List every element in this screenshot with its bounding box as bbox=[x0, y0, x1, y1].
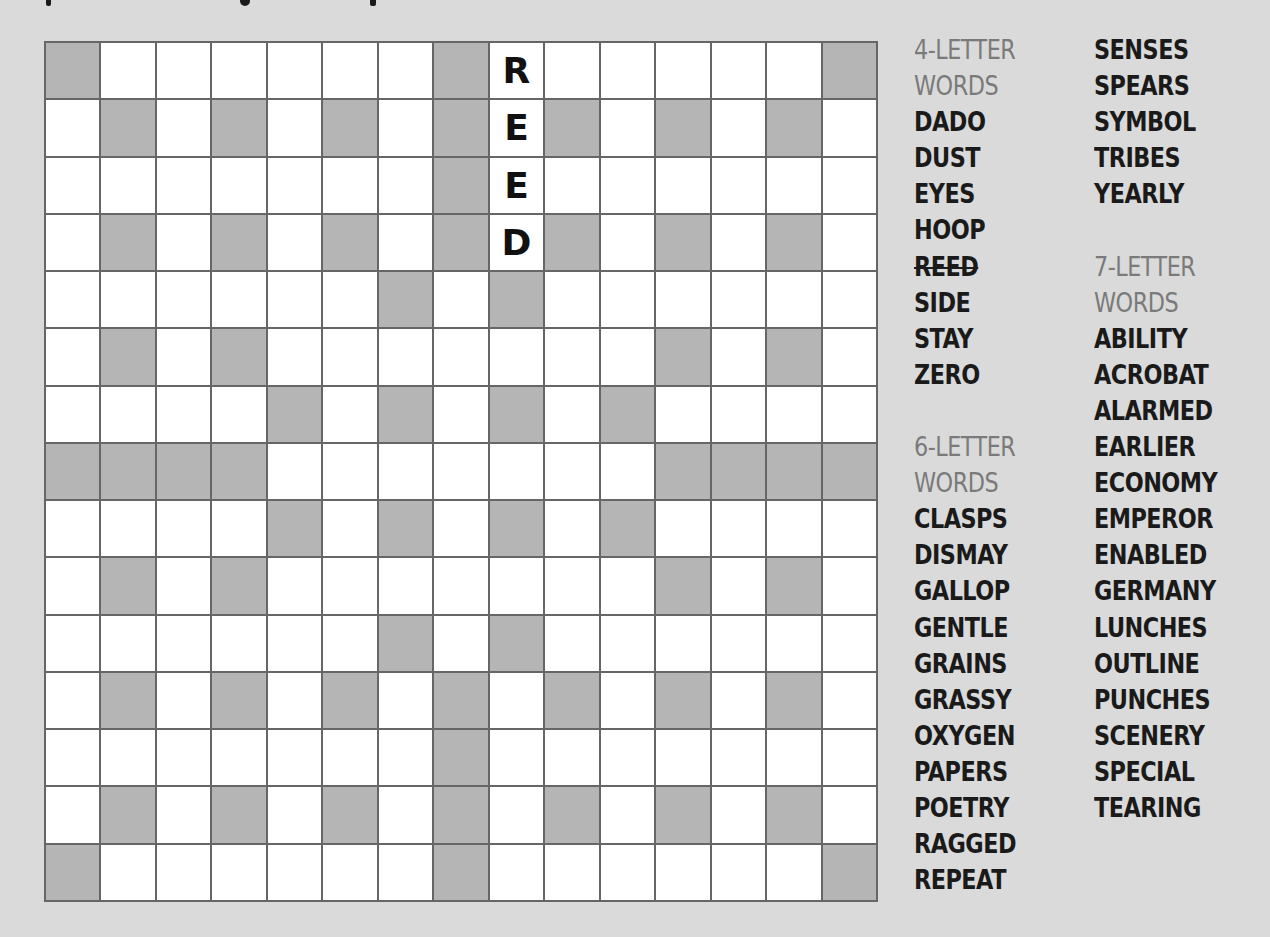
grid-cell[interactable] bbox=[323, 845, 376, 900]
grid-cell[interactable] bbox=[157, 272, 210, 327]
grid-cell[interactable] bbox=[379, 673, 432, 728]
grid-cell[interactable] bbox=[268, 845, 321, 900]
grid-cell[interactable] bbox=[490, 444, 543, 499]
grid-cell[interactable] bbox=[712, 616, 765, 671]
grid-cell[interactable] bbox=[601, 215, 654, 270]
grid-cell[interactable] bbox=[656, 387, 709, 442]
grid-cell[interactable] bbox=[46, 787, 99, 842]
grid-cell[interactable] bbox=[434, 272, 487, 327]
grid-cell[interactable] bbox=[767, 43, 820, 98]
grid-cell[interactable] bbox=[212, 43, 265, 98]
grid-cell[interactable] bbox=[46, 387, 99, 442]
grid-cell[interactable] bbox=[46, 215, 99, 270]
grid-cell[interactable] bbox=[379, 730, 432, 785]
grid-cell[interactable] bbox=[767, 158, 820, 213]
grid-cell[interactable] bbox=[157, 215, 210, 270]
grid-cell[interactable] bbox=[656, 616, 709, 671]
grid-cell[interactable] bbox=[823, 158, 876, 213]
grid-cell[interactable] bbox=[601, 444, 654, 499]
grid-cell[interactable] bbox=[490, 673, 543, 728]
grid-cell[interactable] bbox=[157, 329, 210, 384]
grid-cell[interactable] bbox=[101, 616, 154, 671]
grid-cell[interactable] bbox=[823, 673, 876, 728]
grid-cell[interactable] bbox=[601, 100, 654, 155]
grid-cell[interactable] bbox=[823, 730, 876, 785]
grid-cell[interactable] bbox=[46, 100, 99, 155]
grid-cell[interactable] bbox=[601, 158, 654, 213]
grid-cell[interactable] bbox=[268, 272, 321, 327]
grid-cell[interactable] bbox=[46, 329, 99, 384]
grid-cell[interactable] bbox=[823, 387, 876, 442]
grid-cell[interactable] bbox=[712, 215, 765, 270]
grid-cell[interactable] bbox=[323, 387, 376, 442]
grid-cell[interactable] bbox=[323, 444, 376, 499]
grid-cell[interactable] bbox=[268, 215, 321, 270]
grid-cell[interactable] bbox=[601, 787, 654, 842]
grid-cell[interactable] bbox=[656, 501, 709, 556]
grid-cell[interactable] bbox=[545, 158, 598, 213]
grid-cell[interactable] bbox=[545, 444, 598, 499]
grid-cell[interactable] bbox=[490, 558, 543, 613]
grid-cell[interactable] bbox=[823, 501, 876, 556]
grid-cell[interactable] bbox=[767, 845, 820, 900]
grid-cell[interactable] bbox=[323, 272, 376, 327]
grid-cell[interactable] bbox=[545, 43, 598, 98]
grid-cell[interactable] bbox=[767, 387, 820, 442]
grid-cell[interactable] bbox=[46, 673, 99, 728]
grid-cell[interactable] bbox=[434, 329, 487, 384]
grid-cell[interactable] bbox=[268, 158, 321, 213]
grid-cell[interactable] bbox=[545, 845, 598, 900]
grid-cell[interactable] bbox=[268, 558, 321, 613]
grid-cell[interactable] bbox=[379, 100, 432, 155]
grid-cell[interactable] bbox=[157, 845, 210, 900]
grid-cell[interactable] bbox=[379, 558, 432, 613]
grid-cell[interactable] bbox=[157, 387, 210, 442]
filled-cell[interactable]: E bbox=[490, 100, 543, 155]
grid-cell[interactable] bbox=[101, 501, 154, 556]
grid-cell[interactable] bbox=[656, 158, 709, 213]
grid-cell[interactable] bbox=[46, 558, 99, 613]
grid-cell[interactable] bbox=[379, 845, 432, 900]
grid-cell[interactable] bbox=[823, 100, 876, 155]
grid-cell[interactable] bbox=[545, 387, 598, 442]
grid-cell[interactable] bbox=[712, 43, 765, 98]
grid-cell[interactable] bbox=[101, 845, 154, 900]
grid-cell[interactable] bbox=[268, 444, 321, 499]
grid-cell[interactable] bbox=[712, 501, 765, 556]
grid-cell[interactable] bbox=[656, 272, 709, 327]
grid-cell[interactable] bbox=[601, 43, 654, 98]
grid-cell[interactable] bbox=[157, 501, 210, 556]
grid-cell[interactable] bbox=[212, 616, 265, 671]
grid-cell[interactable] bbox=[46, 730, 99, 785]
grid-cell[interactable] bbox=[490, 730, 543, 785]
grid-cell[interactable] bbox=[268, 43, 321, 98]
grid-cell[interactable] bbox=[823, 215, 876, 270]
grid-cell[interactable] bbox=[379, 43, 432, 98]
grid-cell[interactable] bbox=[268, 329, 321, 384]
grid-cell[interactable] bbox=[212, 387, 265, 442]
grid-cell[interactable] bbox=[157, 100, 210, 155]
grid-cell[interactable] bbox=[545, 730, 598, 785]
grid-cell[interactable] bbox=[268, 100, 321, 155]
grid-cell[interactable] bbox=[601, 730, 654, 785]
grid-cell[interactable] bbox=[545, 616, 598, 671]
grid-cell[interactable] bbox=[101, 43, 154, 98]
grid-cell[interactable] bbox=[712, 730, 765, 785]
grid-cell[interactable] bbox=[323, 730, 376, 785]
grid-cell[interactable] bbox=[712, 558, 765, 613]
grid-cell[interactable] bbox=[101, 730, 154, 785]
grid-cell[interactable] bbox=[101, 387, 154, 442]
filled-cell[interactable]: D bbox=[490, 215, 543, 270]
grid-cell[interactable] bbox=[823, 616, 876, 671]
filled-cell[interactable]: E bbox=[490, 158, 543, 213]
grid-cell[interactable] bbox=[767, 272, 820, 327]
filled-cell[interactable]: R bbox=[490, 43, 543, 98]
grid-cell[interactable] bbox=[656, 43, 709, 98]
grid-cell[interactable] bbox=[434, 558, 487, 613]
grid-cell[interactable] bbox=[157, 558, 210, 613]
grid-cell[interactable] bbox=[379, 444, 432, 499]
grid-cell[interactable] bbox=[545, 272, 598, 327]
grid-cell[interactable] bbox=[545, 329, 598, 384]
grid-cell[interactable] bbox=[157, 616, 210, 671]
grid-cell[interactable] bbox=[323, 158, 376, 213]
